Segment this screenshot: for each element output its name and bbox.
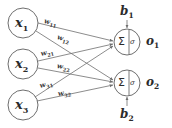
bias-label-b1: b1 bbox=[120, 5, 134, 20]
bias-label-b2: b2 bbox=[120, 108, 134, 123]
sigma-activation-glyph-2: σ bbox=[130, 79, 135, 87]
summation-glyph-1: Σ bbox=[118, 35, 125, 48]
neural-network-diagram: x1 x2 x3 w11 w12 w21 w22 w31 w32 Σ σ Σ σ… bbox=[0, 0, 172, 128]
summation-glyph-2: Σ bbox=[118, 76, 125, 89]
input-label-x3: x3 bbox=[15, 98, 28, 114]
output-label-o1: o1 bbox=[146, 35, 159, 50]
output-label-o2: o2 bbox=[146, 76, 159, 91]
input-label-x2: x2 bbox=[15, 57, 28, 73]
sigma-activation-glyph-1: σ bbox=[130, 38, 135, 46]
input-label-x1: x1 bbox=[15, 16, 28, 32]
weight-label-w22: w22 bbox=[56, 62, 70, 73]
weight-label-w32: w32 bbox=[57, 88, 71, 99]
